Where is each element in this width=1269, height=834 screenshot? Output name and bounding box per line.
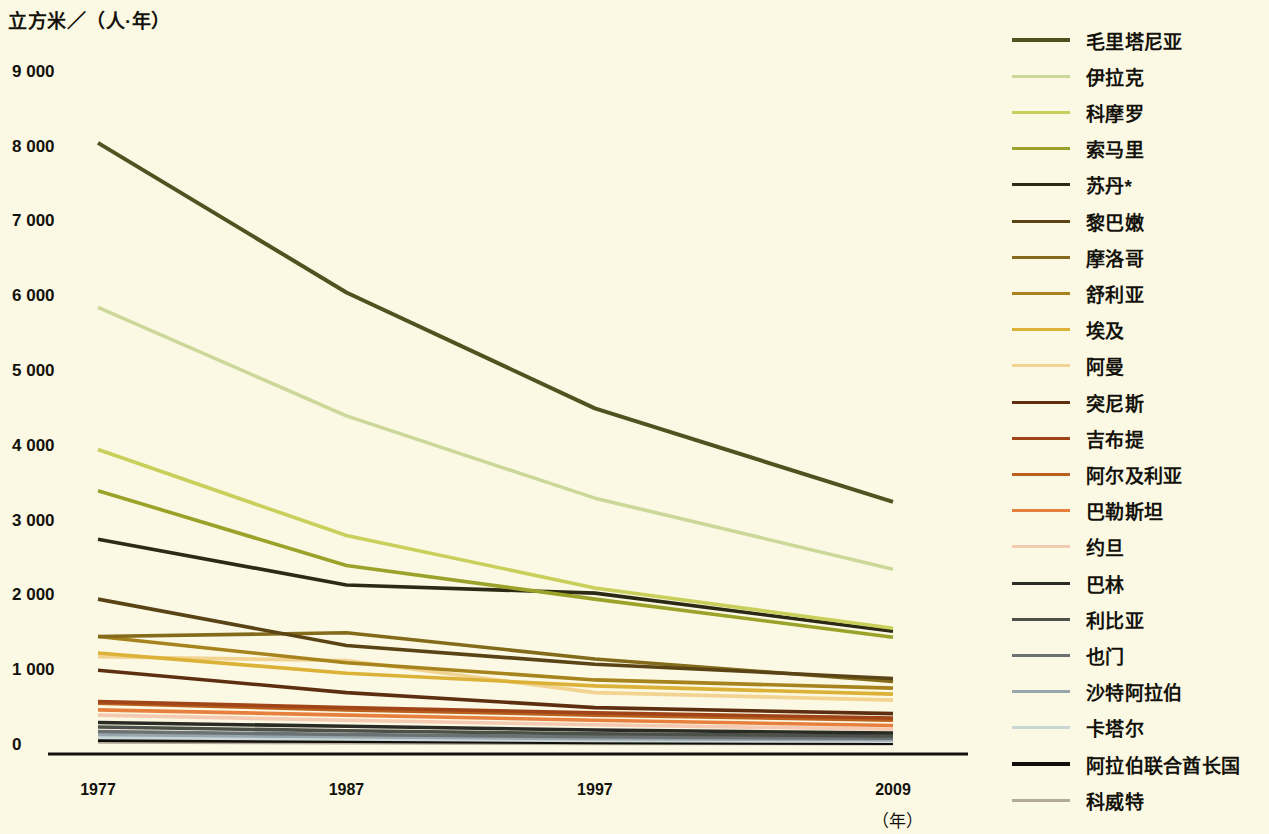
series-line <box>98 450 893 629</box>
legend-swatch-icon <box>1012 799 1070 802</box>
legend-swatch-icon <box>1012 364 1070 367</box>
legend-label: 巴林 <box>1086 570 1125 597</box>
y-tick-label: 6 000 <box>12 286 55 306</box>
legend-swatch-icon <box>1012 111 1070 114</box>
legend-label: 科威特 <box>1086 787 1144 814</box>
legend-swatch-icon <box>1012 690 1070 693</box>
legend-item[interactable]: 埃及 <box>1006 312 1125 348</box>
legend-swatch-icon <box>1012 38 1070 42</box>
legend-item[interactable]: 突尼斯 <box>1006 384 1144 420</box>
y-tick-label: 1 000 <box>12 660 55 680</box>
series-line <box>98 143 893 502</box>
legend-swatch-icon <box>1012 75 1070 78</box>
legend-label: 毛里塔尼亚 <box>1086 27 1183 54</box>
y-tick-label: 2 000 <box>12 585 55 605</box>
legend-item[interactable]: 科威特 <box>1006 782 1144 818</box>
legend-item[interactable]: 约旦 <box>1006 529 1125 565</box>
legend-label: 埃及 <box>1086 316 1125 343</box>
legend-swatch-icon <box>1012 437 1070 440</box>
legend-label: 索马里 <box>1086 135 1144 162</box>
legend-item[interactable]: 摩洛哥 <box>1006 239 1144 275</box>
series-layer <box>98 143 893 744</box>
legend-swatch-icon <box>1012 328 1070 331</box>
legend-swatch-icon <box>1012 618 1070 621</box>
legend-swatch-icon <box>1012 473 1070 476</box>
legend-item[interactable]: 舒利亚 <box>1006 275 1144 311</box>
x-tick-label: 1987 <box>329 781 365 799</box>
legend-label: 摩洛哥 <box>1086 244 1144 271</box>
legend-item[interactable]: 阿拉伯联合酋长国 <box>1006 746 1240 782</box>
legend-label: 苏丹* <box>1086 171 1132 198</box>
legend-label: 利比亚 <box>1086 606 1144 633</box>
legend-label: 阿曼 <box>1086 352 1125 379</box>
legend-swatch-icon <box>1012 582 1070 585</box>
legend-item[interactable]: 卡塔尔 <box>1006 710 1144 746</box>
legend-swatch-icon <box>1012 147 1070 150</box>
chart-page: 立方米／（人·年） 01 0002 0003 0004 0005 0006 00… <box>0 0 1269 834</box>
legend-item[interactable]: 苏丹* <box>1006 167 1132 203</box>
legend-label: 舒利亚 <box>1086 280 1144 307</box>
legend-item[interactable]: 沙特阿拉伯 <box>1006 674 1183 710</box>
legend-item[interactable]: 阿尔及利亚 <box>1006 456 1183 492</box>
legend-label: 伊拉克 <box>1086 63 1144 90</box>
legend-label: 科摩罗 <box>1086 99 1144 126</box>
legend-label: 阿拉伯联合酋长国 <box>1086 751 1240 778</box>
legend-label: 卡塔尔 <box>1086 714 1144 741</box>
legend-item[interactable]: 利比亚 <box>1006 601 1144 637</box>
legend-item[interactable]: 黎巴嫩 <box>1006 203 1144 239</box>
legend-label: 巴勒斯坦 <box>1086 497 1163 524</box>
y-tick-label: 4 000 <box>12 436 55 456</box>
legend-swatch-icon <box>1012 183 1070 186</box>
legend-label: 阿尔及利亚 <box>1086 461 1183 488</box>
legend-item[interactable]: 巴林 <box>1006 565 1125 601</box>
x-axis-unit-label: （年） <box>872 807 923 832</box>
legend-item[interactable]: 科摩罗 <box>1006 94 1144 130</box>
legend-swatch-icon <box>1012 654 1070 657</box>
line-chart-svg <box>0 0 1000 834</box>
x-tick-label: 1977 <box>80 781 116 799</box>
chart-legend: 毛里塔尼亚伊拉克科摩罗索马里苏丹*黎巴嫩摩洛哥舒利亚埃及阿曼突尼斯吉布提阿尔及利… <box>1006 22 1269 822</box>
legend-label: 约旦 <box>1086 533 1125 560</box>
series-line <box>98 307 893 569</box>
legend-swatch-icon <box>1012 292 1070 295</box>
y-tick-label: 5 000 <box>12 361 55 381</box>
legend-label: 突尼斯 <box>1086 389 1144 416</box>
x-tick-label: 2009 <box>875 781 911 799</box>
legend-item[interactable]: 阿曼 <box>1006 348 1125 384</box>
legend-label: 也门 <box>1086 642 1125 669</box>
legend-swatch-icon <box>1012 726 1070 729</box>
legend-item[interactable]: 索马里 <box>1006 131 1144 167</box>
legend-item[interactable]: 毛里塔尼亚 <box>1006 22 1183 58</box>
legend-label: 黎巴嫩 <box>1086 208 1144 235</box>
y-tick-label: 3 000 <box>12 511 55 531</box>
legend-swatch-icon <box>1012 220 1070 223</box>
legend-label: 吉布提 <box>1086 425 1144 452</box>
legend-label: 沙特阿拉伯 <box>1086 678 1183 705</box>
legend-swatch-icon <box>1012 401 1070 404</box>
legend-item[interactable]: 巴勒斯坦 <box>1006 493 1163 529</box>
legend-swatch-icon <box>1012 545 1070 548</box>
x-tick-label: 1997 <box>577 781 613 799</box>
legend-item[interactable]: 吉布提 <box>1006 420 1144 456</box>
legend-item[interactable]: 伊拉克 <box>1006 58 1144 94</box>
legend-swatch-icon <box>1012 762 1070 766</box>
plot-area: 01 0002 0003 0004 0005 0006 0007 0008 00… <box>0 0 1000 834</box>
legend-swatch-icon <box>1012 509 1070 512</box>
y-tick-label: 9 000 <box>12 62 55 82</box>
legend-item[interactable]: 也门 <box>1006 637 1125 673</box>
y-tick-label: 0 <box>12 735 21 755</box>
y-tick-label: 8 000 <box>12 137 55 157</box>
y-tick-label: 7 000 <box>12 211 55 231</box>
legend-swatch-icon <box>1012 256 1070 259</box>
